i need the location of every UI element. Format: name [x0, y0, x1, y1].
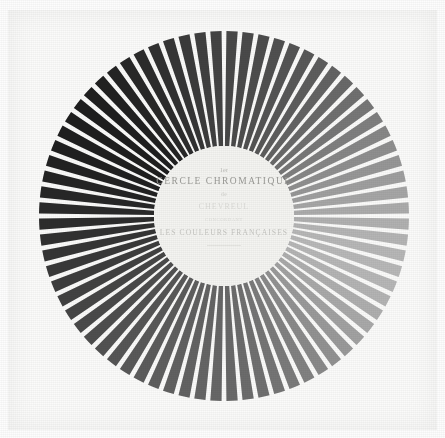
color-wheel-svg — [0, 0, 445, 438]
color-wheel — [0, 0, 445, 438]
figure-page: 1er CERCLE CHROMATIQUE de CHEVREUL CONCO… — [0, 0, 445, 438]
hub-disc — [154, 146, 294, 286]
